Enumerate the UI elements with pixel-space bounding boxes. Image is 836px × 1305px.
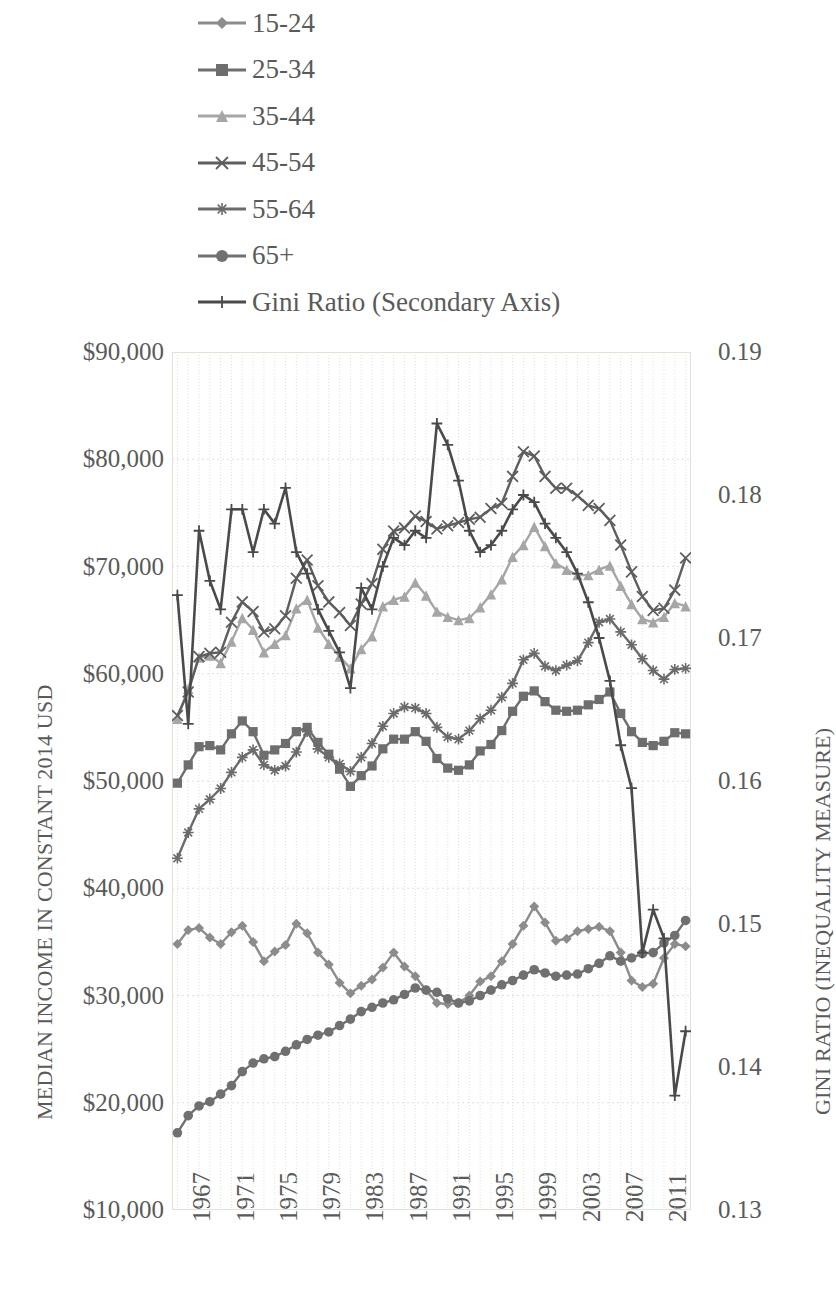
series-55-64	[172, 614, 691, 864]
series-65	[173, 916, 691, 1138]
chart-canvas	[172, 352, 691, 1210]
series-gini-ratio-secondary-axis	[172, 418, 691, 1101]
plot-area	[172, 352, 691, 1210]
